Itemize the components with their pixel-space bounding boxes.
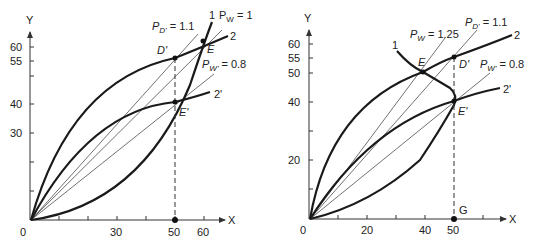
- right-point-eprime: [452, 99, 457, 104]
- right-y-tick-50: 50: [288, 67, 300, 79]
- right-label-eprime: E': [458, 105, 468, 117]
- right-curve-label-2: 2: [514, 29, 520, 41]
- right-x-tick-50: 50: [447, 224, 459, 236]
- left-y-tick-40: 40: [10, 98, 22, 110]
- left-label-e: E: [207, 43, 215, 55]
- right-label-dprime: D': [459, 58, 470, 70]
- left-curve-2: [31, 36, 228, 220]
- left-x-ticks: 30 50 60: [59, 216, 209, 238]
- right-y-axis-label: Y: [304, 12, 312, 24]
- right-x-tick-20: 20: [361, 224, 373, 236]
- left-x-tick-60: 60: [197, 226, 209, 238]
- right-curve-label-1: 1: [392, 39, 398, 51]
- left-y-tick-60: 60: [10, 41, 22, 53]
- left-curve-label-1: 1: [209, 9, 215, 21]
- right-label-e: E: [418, 56, 426, 68]
- left-curve-label-2: 2: [230, 30, 236, 42]
- left-y-tick-55: 55: [10, 55, 22, 67]
- right-price-line-pwp: [310, 73, 490, 219]
- left-x-axis-label: X: [228, 214, 236, 226]
- diagram-canvas: Y X 0 60 55 40 30 30 50 60: [0, 0, 536, 248]
- left-price-label-pwp: PW'= 0.8: [202, 58, 246, 73]
- right-x-axis-label: X: [509, 213, 517, 225]
- right-y-tick-40: 40: [288, 96, 300, 108]
- right-price-label-pwp: PW'= 0.8: [480, 58, 524, 73]
- right-price-label-pw: PW= 1.25: [410, 28, 459, 43]
- left-x-tick-50: 50: [168, 226, 180, 238]
- right-origin-label: 0: [300, 224, 306, 236]
- left-label-dprime: D': [157, 44, 168, 56]
- right-x-tick-40: 40: [419, 224, 431, 236]
- left-price-label-pd: PD'= 1.1: [152, 20, 194, 35]
- left-price-line-pwp: [31, 74, 214, 220]
- left-price-label-pw: PW= 1: [219, 9, 253, 24]
- left-y-tick-30: 30: [10, 127, 22, 139]
- left-point-e: [201, 39, 206, 44]
- left-point-eprime: [173, 100, 178, 105]
- right-curve-2prime: [310, 88, 500, 219]
- right-x-ticks: 20 40 50: [338, 215, 483, 236]
- right-price-label-pd: PD'= 1.1: [465, 16, 507, 31]
- right-point-dprime: [452, 55, 457, 60]
- right-point-g: [451, 216, 457, 222]
- left-label-eprime: E': [179, 106, 189, 118]
- right-y-tick-60: 60: [288, 38, 300, 50]
- left-panel: Y X 0 60 55 40 30 30 50 60: [10, 9, 253, 238]
- left-curve-1: [31, 22, 212, 220]
- right-point-e: [421, 70, 426, 75]
- right-label-g: G: [459, 204, 468, 216]
- left-origin-label: 0: [20, 226, 26, 238]
- left-y-axis-label: Y: [26, 14, 34, 26]
- right-curve-label-2prime: 2': [503, 83, 511, 95]
- right-y-tick-55: 55: [288, 52, 300, 64]
- left-price-line-pw: [31, 30, 222, 220]
- left-point-x50: [172, 217, 178, 223]
- left-point-dprime: [173, 56, 178, 61]
- left-price-line-pd: [31, 34, 198, 220]
- right-panel: Y X 0 60 55 50 40 20 20 40 50: [288, 12, 524, 236]
- left-x-tick-30: 30: [110, 226, 122, 238]
- left-curve-label-2prime: 2': [214, 88, 222, 100]
- right-y-tick-20: 20: [288, 154, 300, 166]
